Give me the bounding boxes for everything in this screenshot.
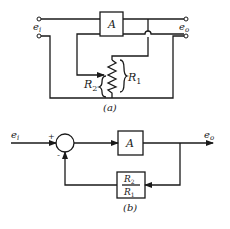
input-label-ei: ei [33, 21, 41, 34]
r1-brace [120, 60, 127, 92]
caption-b: (b) [123, 202, 137, 213]
wiper-wire [77, 34, 104, 75]
diagram-canvas: A R1 R2 ei eo (a) ei + - A eo [0, 0, 230, 229]
output-label-eo: eo [179, 21, 189, 34]
summing-junction [56, 134, 74, 152]
r2-label: R2 [83, 78, 97, 93]
caption-a: (a) [103, 102, 117, 113]
minus-sign: - [57, 150, 60, 160]
circuit-diagram-a: A R1 R2 ei eo (a) [33, 12, 189, 113]
r2-brace [99, 76, 106, 97]
feedback-path-left [65, 152, 117, 185]
r1-top-wire [112, 19, 148, 60]
amplifier-label: A [107, 18, 116, 31]
input-terminal-bottom [37, 34, 41, 38]
r1-label: R1 [127, 71, 141, 86]
forward-block-label: A [125, 137, 134, 150]
feedback-numerator: R2 [123, 174, 135, 185]
output-label-eo-b: eo [204, 129, 214, 142]
feedback-denominator: R1 [123, 187, 135, 198]
output-terminal-bottom [184, 34, 188, 38]
potentiometer-r1 [108, 60, 116, 98]
plus-sign: + [48, 132, 55, 141]
block-diagram-b: ei + - A eo R2 R1 (b) [11, 129, 214, 213]
a-lower-wire [123, 31, 184, 34]
feedback-path-right [145, 143, 180, 185]
input-label-ei-b: ei [11, 129, 19, 142]
